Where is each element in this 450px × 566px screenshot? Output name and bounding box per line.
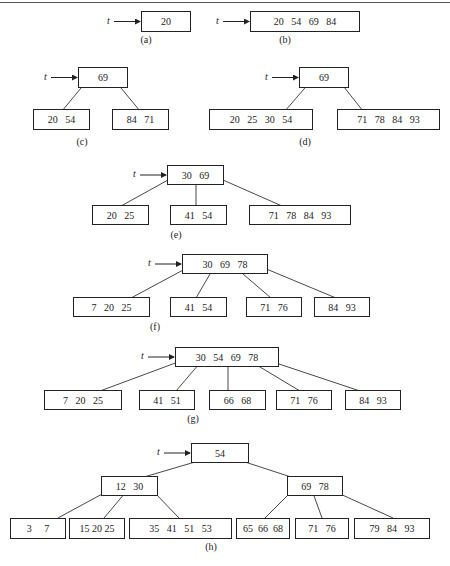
tree-node: 41 54 — [170, 297, 227, 317]
tree-node: 15 20 25 — [69, 518, 125, 539]
tree-node: 7 20 25 — [73, 297, 150, 317]
root-pointer-label: t — [148, 257, 151, 268]
tree-node: 84 93 — [345, 390, 401, 410]
root-pointer-label: t — [44, 71, 47, 82]
tree-node: 20 25 30 54 — [209, 109, 313, 130]
tree-node: 41 54 — [170, 205, 227, 225]
tree-node: 20 25 — [92, 205, 149, 225]
tree-node: 65 66 68 — [236, 518, 290, 539]
tree-node: 71 76 — [276, 390, 332, 410]
figure-caption: (f) — [135, 321, 175, 332]
figure-caption: (d) — [285, 136, 325, 147]
tree-node: 35 41 51 53 — [129, 518, 232, 539]
figure-caption: (c) — [62, 136, 102, 147]
tree-edge — [338, 493, 393, 518]
tree-node: 84 93 — [314, 297, 370, 317]
figure-caption: (a) — [126, 34, 166, 45]
tree-edge — [223, 180, 282, 206]
root-pointer-label: t — [107, 15, 110, 26]
root-node: 69 — [299, 67, 349, 88]
tree-node: 84 71 — [112, 109, 169, 130]
root-node: 30 69 78 — [182, 254, 268, 274]
root-node: 20 54 69 84 — [250, 11, 360, 32]
tree-edge — [176, 364, 199, 391]
tree-node: 7 20 25 — [44, 390, 122, 410]
tree-node: 41 51 — [139, 390, 195, 410]
tree-edge — [58, 493, 104, 518]
tree-node: 20 54 — [33, 109, 90, 130]
tree-node: 71 78 84 93 — [337, 109, 440, 130]
tree-edge — [255, 364, 300, 391]
tree-edge — [265, 493, 290, 518]
root-pointer-label: t — [265, 71, 268, 82]
figure-caption: (g) — [173, 413, 213, 424]
tree-edge — [131, 269, 185, 298]
tree-edge — [264, 268, 336, 298]
root-node: 30 54 69 78 — [175, 347, 279, 367]
tree-edge — [104, 493, 125, 518]
tree-node: 12 30 — [101, 476, 158, 496]
tree-edge — [243, 274, 271, 298]
tree-node: 71 76 — [295, 518, 349, 539]
figure-caption: (b) — [265, 34, 305, 45]
root-pointer-label: t — [216, 15, 219, 26]
tree-edge — [121, 180, 168, 206]
tree-node: 71 78 84 93 — [249, 205, 351, 225]
root-node: 30 69 — [167, 165, 224, 185]
root-pointer-label: t — [141, 350, 144, 361]
tree-edge — [155, 493, 179, 518]
tree-node: 79 84 93 — [354, 518, 430, 539]
tree-edge — [273, 362, 360, 391]
tree-node: 71 76 — [246, 297, 302, 317]
tree-edge — [100, 362, 178, 391]
root-pointer-label: t — [133, 168, 136, 179]
root-node: 69 — [78, 67, 128, 88]
tree-edge — [196, 274, 210, 298]
root-pointer-label: t — [157, 446, 160, 457]
figure-caption: (h) — [191, 541, 231, 552]
root-node: 20 — [141, 11, 191, 32]
tree-node: 66 68 — [209, 390, 266, 410]
tree-edge — [313, 493, 322, 518]
root-node: 54 — [191, 443, 249, 463]
tree-edge — [245, 462, 291, 477]
figure-caption: (e) — [156, 229, 196, 240]
tree-node: 3 7 — [10, 518, 66, 539]
tree-edges — [0, 0, 450, 566]
tree-edge — [144, 462, 195, 477]
tree-node: 69 78 — [287, 476, 343, 496]
